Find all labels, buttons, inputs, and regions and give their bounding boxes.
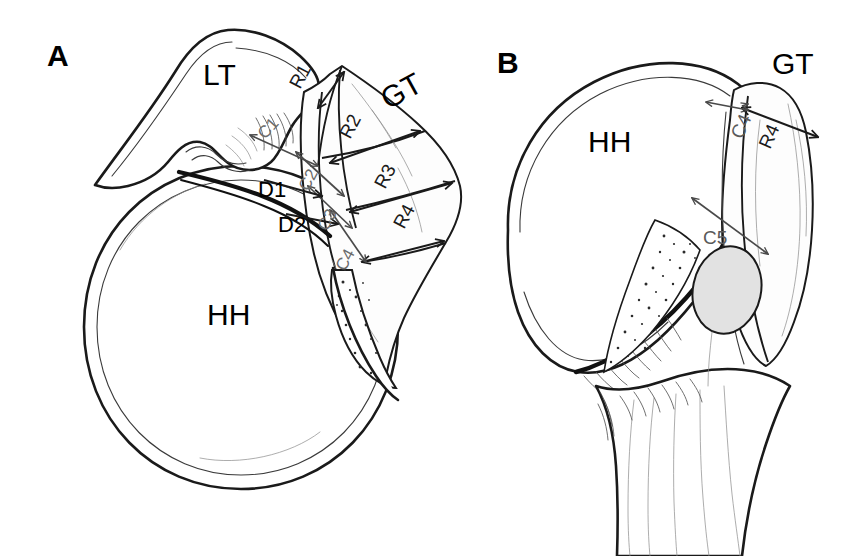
panel-b-letter: B [497, 46, 519, 79]
panel-b-label-col-c5: C5 [703, 227, 727, 248]
panel-a-label-lesser-tuberosity: LT [203, 58, 236, 91]
panel-b-humeral-shaft [596, 369, 790, 556]
panel-a-letter: A [47, 39, 69, 72]
panel-a-label-humeral-head: HH [207, 298, 250, 331]
anatomical-figure: A LT HH GT R1 R2 R3 R4 C1 C2 C3 C4 D1 D2 [0, 0, 863, 556]
panel-a: A LT HH GT R1 R2 R3 R4 C1 C2 C3 C4 D1 D2 [47, 30, 461, 489]
figure-canvas: A LT HH GT R1 R2 R3 R4 C1 C2 C3 C4 D1 D2 [0, 0, 863, 556]
panel-a-lesser-tuberosity-shape [95, 30, 319, 188]
panel-a-label-distance-d2: D2 [278, 212, 306, 237]
panel-b-label-greater-tuberosity: GT [772, 47, 814, 80]
panel-b: B HH GT C4 R4 C5 [497, 46, 818, 556]
panel-b-label-humeral-head: HH [588, 125, 631, 158]
panel-a-label-distance-d1: D1 [258, 177, 286, 202]
